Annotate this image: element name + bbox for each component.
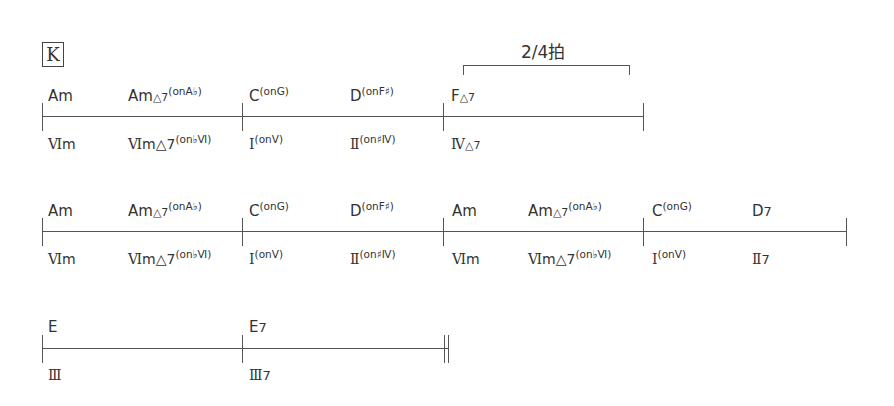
roman-numeral-degree: Ⅵm△7(on♭Ⅵ)	[128, 250, 211, 268]
chord-symbol: Am	[48, 87, 73, 105]
barline	[643, 103, 644, 131]
barline	[443, 218, 444, 246]
barline	[443, 103, 444, 131]
chord-symbol: Am△7(onA♭)	[128, 87, 202, 107]
roman-numeral-degree: Ⅱ(on♯Ⅳ)	[350, 135, 396, 153]
rehearsal-mark-k: K	[42, 42, 64, 67]
chord-symbol: D7	[752, 202, 772, 221]
barline	[42, 218, 43, 246]
chord-symbol: E7	[249, 318, 267, 337]
staff-line	[42, 116, 643, 117]
chord-symbol: C(onG)	[249, 87, 289, 105]
roman-numeral-degree: Ⅲ7	[249, 366, 271, 385]
roman-numeral-degree: Ⅵm	[452, 250, 480, 268]
chord-symbol: E	[48, 318, 57, 336]
chord-symbol: Am	[452, 202, 477, 220]
roman-numeral-degree: Ⅰ(onⅤ)	[249, 135, 283, 153]
roman-numeral-degree: Ⅵm	[48, 135, 76, 153]
roman-numeral-degree: Ⅰ(onⅤ)	[652, 250, 686, 268]
final-double-barline	[444, 335, 445, 363]
barline	[242, 218, 243, 246]
barline	[242, 335, 243, 363]
chord-symbol: Am△7(onA♭)	[528, 202, 602, 222]
roman-numeral-degree: Ⅲ	[48, 366, 62, 384]
chord-symbol: D(onF♯)	[350, 202, 394, 220]
chord-symbol: Am△7(onA♭)	[128, 202, 202, 222]
roman-numeral-degree: Ⅵm△7(on♭Ⅵ)	[128, 135, 211, 153]
barline	[643, 218, 644, 246]
roman-numeral-degree: Ⅱ(on♯Ⅳ)	[350, 250, 396, 268]
roman-numeral-degree: Ⅵm	[48, 250, 76, 268]
annotation-bracket	[463, 65, 630, 75]
staff-line	[42, 231, 846, 232]
chord-symbol: C(onG)	[249, 202, 289, 220]
roman-numeral-degree: Ⅵm△7(on♭Ⅵ)	[528, 250, 611, 268]
barline	[42, 103, 43, 131]
chord-symbol: D(onF♯)	[350, 87, 394, 105]
roman-numeral-degree: Ⅱ7	[752, 250, 770, 269]
chord-symbol: Am	[48, 202, 73, 220]
time-signature-annotation: 2/4拍	[521, 42, 565, 62]
roman-numeral-degree: Ⅳ△7	[451, 135, 480, 155]
chord-symbol: F△7	[451, 87, 475, 107]
final-double-barline	[448, 335, 449, 363]
roman-numeral-degree: Ⅰ(onⅤ)	[249, 250, 283, 268]
barline	[846, 218, 847, 246]
chord-symbol: C(onG)	[652, 202, 692, 220]
staff-line	[42, 348, 448, 349]
barline	[242, 103, 243, 131]
barline	[42, 335, 43, 363]
